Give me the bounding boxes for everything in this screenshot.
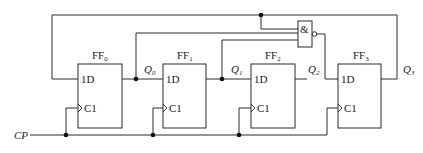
svg-text:Q0: Q0	[144, 63, 156, 77]
and-symbol: &	[300, 23, 309, 35]
svg-text:C1: C1	[84, 102, 97, 114]
circuit-diagram: & CP FF0 1D C1 Q0 FF1 1D C1 Q1	[0, 0, 423, 153]
svg-text:C1: C1	[344, 102, 357, 114]
flip-flop-0: FF0 1D C1 Q0	[78, 49, 156, 128]
clock-label: CP	[14, 129, 28, 141]
svg-text:FF3: FF3	[353, 49, 369, 63]
flip-flop-1: FF1 1D C1 Q1	[163, 49, 242, 128]
svg-text:Q3: Q3	[403, 63, 415, 77]
svg-text:Q1: Q1	[231, 63, 242, 77]
svg-text:FF2: FF2	[265, 49, 281, 63]
svg-text:FF1: FF1	[177, 49, 193, 63]
svg-text:1D: 1D	[81, 73, 95, 85]
svg-text:1D: 1D	[166, 73, 180, 85]
svg-text:C1: C1	[257, 102, 270, 114]
svg-text:C1: C1	[169, 102, 182, 114]
inversion-bubble	[312, 32, 317, 37]
flip-flop-2: FF2 1D C1 Q2	[251, 49, 320, 128]
svg-text:1D: 1D	[341, 73, 355, 85]
junction-dot	[259, 13, 264, 18]
svg-text:1D: 1D	[254, 73, 268, 85]
flip-flop-3: FF3 1D C1 Q3	[338, 49, 415, 128]
svg-text:Q2: Q2	[308, 63, 320, 77]
svg-text:FF0: FF0	[92, 49, 108, 63]
